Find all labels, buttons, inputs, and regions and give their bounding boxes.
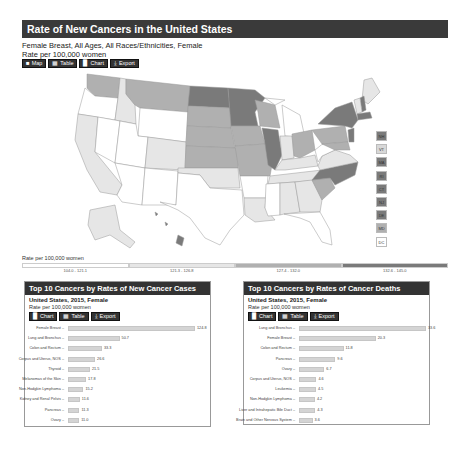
- bar[interactable]: [299, 418, 313, 423]
- state-SD[interactable]: [187, 106, 231, 128]
- state-CO[interactable]: [145, 137, 186, 170]
- legend-title: Rate per 100,000 women: [22, 255, 84, 261]
- state-NY[interactable]: [318, 102, 358, 128]
- small-state-MD[interactable]: MD: [376, 223, 387, 233]
- bar[interactable]: [68, 408, 79, 413]
- bar-category-label: Pancreas –: [45, 408, 64, 412]
- state-PA[interactable]: [312, 126, 348, 144]
- small-state-NH[interactable]: NH: [376, 131, 387, 141]
- bar[interactable]: [68, 397, 80, 402]
- state-NE[interactable]: [186, 126, 235, 148]
- panel-title: Top 10 Cancers by Rates of New Cancer Ca…: [25, 282, 210, 295]
- bar-value-label: 33.6: [428, 326, 435, 330]
- bar[interactable]: [299, 357, 335, 362]
- map-subtitle: Female Breast, All Ages, All Races/Ethni…: [22, 42, 203, 59]
- chart-button[interactable]: ▉Chart: [79, 59, 107, 68]
- state-MS[interactable]: [265, 183, 280, 216]
- state-KY[interactable]: [275, 155, 318, 170]
- table-button[interactable]: ▦Table: [48, 59, 77, 68]
- small-state-DC[interactable]: DC: [376, 237, 387, 247]
- download-icon: ⤓: [95, 312, 98, 321]
- bar[interactable]: [299, 367, 324, 372]
- bar-category-label: Kidney and Renal Pelvis –: [20, 397, 64, 401]
- small-state-DE[interactable]: DE: [376, 210, 387, 220]
- bar[interactable]: [299, 346, 344, 351]
- bar[interactable]: [68, 336, 120, 341]
- bar[interactable]: [299, 387, 316, 392]
- bar-category-label: Brain and Other Nervous System –: [236, 418, 295, 422]
- state-HI[interactable]: [155, 212, 184, 246]
- bar-value-label: 11.8: [346, 346, 353, 350]
- state-KS[interactable]: [185, 146, 238, 168]
- bar-value-label: 11.6: [82, 397, 89, 401]
- state-AK[interactable]: [88, 205, 135, 248]
- state-IA[interactable]: [231, 126, 265, 146]
- table-button[interactable]: ▦Table: [59, 312, 88, 321]
- bar-category-label: Colon and Rectum –: [260, 346, 295, 350]
- bar-value-label: 15.2: [85, 387, 92, 391]
- state-AR[interactable]: [240, 176, 268, 198]
- export-button[interactable]: ⤓Export: [91, 312, 120, 321]
- bar[interactable]: [299, 377, 316, 382]
- bar-category-label: Lung and Bronchus –: [259, 326, 295, 330]
- bar[interactable]: [68, 387, 83, 392]
- bar[interactable]: [68, 357, 95, 362]
- bar-category-label: Corpus and Uterus, NOS –: [19, 357, 64, 361]
- map-button[interactable]: ■Map: [22, 59, 46, 68]
- small-state-CT[interactable]: CT: [376, 184, 387, 194]
- bar-value-label: 26.6: [97, 357, 104, 361]
- table-grid-icon: ▦: [52, 59, 58, 68]
- small-state-VT[interactable]: VT: [376, 144, 387, 154]
- bar-value-label: 3.6: [315, 418, 320, 422]
- download-icon: ⤓: [114, 59, 117, 68]
- bar[interactable]: [299, 336, 376, 341]
- bar-category-label: Female Breast –: [267, 336, 295, 340]
- bar-category-label: Corpus and Uterus, NOS –: [250, 377, 295, 381]
- panel-toolbar: ▉Chart ▦Table ⤓Export: [248, 312, 339, 321]
- bar[interactable]: [299, 326, 426, 331]
- small-state-RI[interactable]: RI: [376, 171, 387, 181]
- export-button[interactable]: ⤓Export: [310, 312, 339, 321]
- bar[interactable]: [68, 367, 90, 372]
- state-FL[interactable]: [284, 212, 332, 245]
- bar[interactable]: [299, 408, 315, 413]
- bar-value-label: 4.5: [318, 387, 323, 391]
- bar-category-label: Lung and Bronchus –: [28, 336, 64, 340]
- bar-category-label: Thyroid –: [48, 367, 64, 371]
- bar[interactable]: [68, 377, 86, 382]
- bar-chart-icon: ▉: [83, 59, 88, 68]
- us-choropleth-map: [60, 70, 390, 250]
- panel-units: Rate per 100,000 women: [244, 304, 429, 310]
- bar-category-label: Non-Hodgkin Lymphoma –: [19, 387, 64, 391]
- subtitle-units: Rate per 100,000 women: [22, 51, 203, 60]
- map-toolbar: ■Map ▦Table ▉Chart ⤓Export: [22, 59, 139, 68]
- export-button[interactable]: ⤓Export: [110, 59, 139, 68]
- bar-value-label: 9.6: [337, 357, 342, 361]
- state-ND[interactable]: [188, 86, 230, 108]
- bar-value-label: 4.3: [317, 408, 322, 412]
- legend-label: 104.0 - 121.1: [22, 268, 129, 273]
- small-states-list: NH VT MA RI CT NJ DE MD DC: [376, 131, 387, 247]
- state-IN[interactable]: [280, 136, 294, 160]
- bar-category-label: Leukemia –: [275, 387, 295, 391]
- small-state-NJ[interactable]: NJ: [376, 197, 387, 207]
- small-state-MA[interactable]: MA: [376, 157, 387, 167]
- state-OH[interactable]: [292, 130, 315, 158]
- legend-label: 132.6 - 145.0: [342, 268, 449, 273]
- state-MT[interactable]: [126, 79, 190, 112]
- bar-value-label: 11.3: [81, 408, 88, 412]
- bar-value-label: 17.8: [88, 377, 95, 381]
- state-NM[interactable]: [142, 168, 178, 205]
- state-NJ[interactable]: [348, 128, 354, 142]
- chart-button[interactable]: ▉Chart: [248, 312, 276, 321]
- bar-value-label: 50.7: [122, 336, 129, 340]
- bar[interactable]: [68, 346, 102, 351]
- us-map-icon: ■: [26, 59, 30, 68]
- bar[interactable]: [299, 397, 315, 402]
- bar[interactable]: [68, 326, 195, 331]
- table-button[interactable]: ▦Table: [278, 312, 307, 321]
- bar[interactable]: [68, 418, 79, 423]
- table-grid-icon: ▦: [63, 312, 69, 321]
- chart-button[interactable]: ▉Chart: [29, 312, 57, 321]
- bar-category-label: Non-Hodgkin Lymphoma –: [250, 397, 295, 401]
